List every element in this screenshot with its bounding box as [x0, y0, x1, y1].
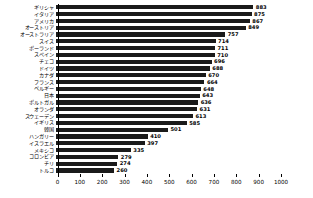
bar-track: 849 — [56, 24, 313, 31]
bar-track: 670 — [56, 72, 313, 79]
x-axis-tick — [214, 174, 215, 177]
bar — [56, 148, 131, 152]
x-axis-tick-label: 300 — [119, 178, 130, 186]
bar-track: 613 — [56, 113, 313, 120]
bar — [56, 32, 225, 36]
bar-track: 883 — [56, 4, 313, 11]
bar-value-label: 585 — [189, 120, 200, 126]
bar-track: 279 — [56, 154, 313, 161]
bar-track: 711 — [56, 45, 313, 52]
category-label: トルコ — [0, 167, 56, 174]
bar — [56, 155, 118, 159]
x-axis-tick — [102, 174, 103, 177]
bar-value-label: 711 — [217, 45, 228, 51]
bar-track: 710 — [56, 52, 313, 59]
bar-value-label: 757 — [228, 31, 239, 37]
bar — [56, 73, 206, 77]
bar-chart: ギリシャ883イタリア875アメリカ867オーストリア849オーストラリア757… — [0, 0, 313, 198]
bar-value-label: 613 — [196, 113, 207, 119]
x-axis-tick — [169, 174, 170, 177]
bar-value-label: 714 — [218, 38, 229, 44]
bar-track: 696 — [56, 58, 313, 65]
bar — [56, 94, 200, 98]
bar-value-label: 335 — [133, 147, 144, 153]
bar-value-label: 710 — [217, 52, 228, 58]
bar-track: 410 — [56, 133, 313, 140]
bar-track: 585 — [56, 120, 313, 127]
bar-value-label: 867 — [252, 18, 263, 24]
bar — [56, 107, 197, 111]
x-axis-tick-label: 100 — [75, 178, 86, 186]
bar-track: 714 — [56, 38, 313, 45]
bar-value-label: 664 — [207, 79, 218, 85]
x-axis-tick — [192, 174, 193, 177]
x-axis-tick-label: 400 — [142, 178, 153, 186]
bar-value-label: 636 — [201, 99, 212, 105]
bar — [56, 87, 201, 91]
bar — [56, 5, 253, 9]
x-axis-tick-label: 800 — [231, 178, 242, 186]
x-axis-tick-label: 500 — [164, 178, 175, 186]
bar-track: 397 — [56, 140, 313, 147]
bar-value-label: 688 — [212, 65, 223, 71]
bar — [56, 168, 114, 172]
bar-track: 875 — [56, 11, 313, 18]
x-axis-tick — [80, 174, 81, 177]
bar-value-label: 260 — [117, 167, 128, 173]
bar-value-label: 696 — [214, 58, 225, 64]
x-axis-tick — [58, 174, 59, 177]
bar — [56, 121, 187, 125]
x-axis-tick — [281, 174, 282, 177]
bar — [56, 39, 216, 43]
bar-value-label: 670 — [208, 72, 219, 78]
bar-value-label: 501 — [170, 126, 181, 132]
bar — [56, 162, 117, 166]
x-axis-tick-label: 1000 — [274, 178, 288, 186]
x-axis-tick — [259, 174, 260, 177]
bar-value-label: 648 — [203, 86, 214, 92]
bar-track: 274 — [56, 160, 313, 167]
bar-value-label: 397 — [147, 140, 158, 146]
bar-value-label: 631 — [200, 106, 211, 112]
bar-value-label: 883 — [256, 4, 267, 10]
bar-value-label: 274 — [120, 160, 131, 166]
bar-value-label: 643 — [202, 92, 213, 98]
x-axis-tick-label: 600 — [186, 178, 197, 186]
bar-track: 335 — [56, 147, 313, 154]
bar-value-label: 875 — [254, 11, 265, 17]
bar-track: 648 — [56, 86, 313, 93]
bar-track: 260 — [56, 167, 313, 174]
bar — [56, 46, 215, 50]
x-axis-tick-labels: 01002003004005006007008009001000 — [0, 178, 313, 190]
bar-track: 643 — [56, 92, 313, 99]
chart-plot-area: ギリシャ883イタリア875アメリカ867オーストリア849オーストラリア757… — [0, 4, 313, 174]
bar — [56, 141, 145, 145]
bar — [56, 66, 210, 70]
bar — [56, 80, 204, 84]
bar — [56, 60, 212, 64]
x-axis-tick — [125, 174, 126, 177]
x-axis-tick-label: 0 — [56, 178, 60, 186]
x-axis-tick-label: 700 — [209, 178, 220, 186]
bar-track: 688 — [56, 65, 313, 72]
bar — [56, 26, 246, 30]
bar — [56, 53, 215, 57]
x-axis-tick — [236, 174, 237, 177]
bar-track: 636 — [56, 99, 313, 106]
x-axis-tick — [147, 174, 148, 177]
bar — [56, 114, 193, 118]
bar-track: 501 — [56, 126, 313, 133]
x-axis-tick-label: 200 — [97, 178, 108, 186]
bar — [56, 12, 252, 16]
bar-value-label: 410 — [150, 133, 161, 139]
bar-track: 757 — [56, 31, 313, 38]
x-axis-tick-label: 900 — [253, 178, 264, 186]
bar — [56, 19, 250, 23]
bar-track: 867 — [56, 18, 313, 25]
bar-track: 631 — [56, 106, 313, 113]
bar — [56, 134, 148, 138]
bar — [56, 128, 168, 132]
bar — [56, 100, 198, 104]
bar-track: 664 — [56, 79, 313, 86]
bar-value-label: 849 — [248, 24, 259, 30]
